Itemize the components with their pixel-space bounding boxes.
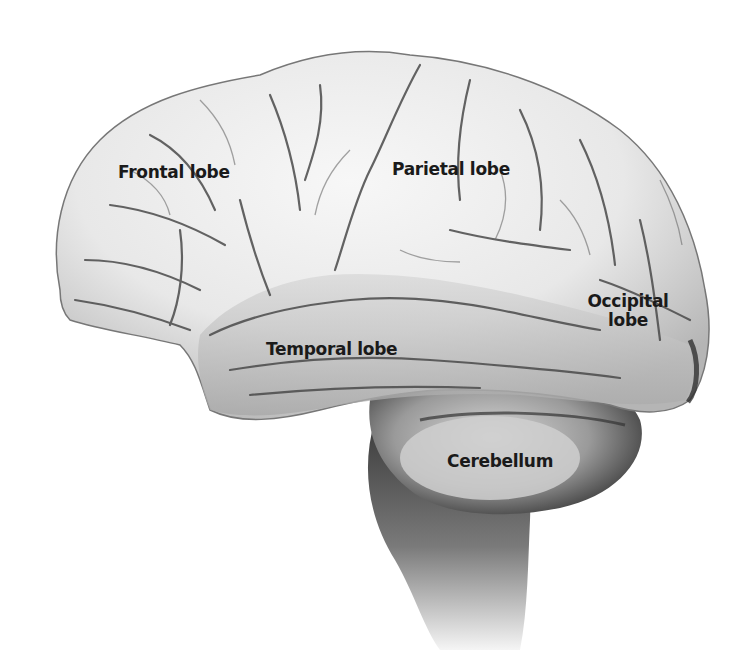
label-occipital-line2: lobe	[582, 311, 674, 330]
label-frontal-lobe: Frontal lobe	[118, 163, 230, 182]
label-occipital-line1: Occipital	[582, 292, 674, 311]
brain-diagram: Frontal lobe Parietal lobe Occipital lob…	[0, 0, 742, 669]
label-temporal-lobe: Temporal lobe	[266, 340, 397, 359]
brain-illustration	[0, 0, 742, 669]
label-cerebellum: Cerebellum	[447, 452, 553, 471]
label-parietal-lobe: Parietal lobe	[392, 160, 510, 179]
label-occipital-lobe: Occipital lobe	[582, 292, 674, 329]
